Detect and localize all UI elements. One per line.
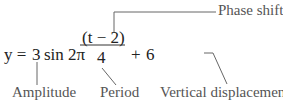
equation-numerator: (t − 2) [82, 28, 125, 48]
equation-function: sin 2π [44, 45, 85, 65]
equation-plus: + [131, 45, 141, 65]
equation-amplitude: 3 [32, 45, 41, 65]
label-vertical-displacement: Vertical displacement [160, 84, 283, 101]
equation-vertical: 6 [146, 45, 155, 65]
equation-denominator: 4 [97, 48, 106, 68]
equation-lhs: y = [4, 45, 26, 65]
label-amplitude: Amplitude [12, 84, 76, 101]
label-period: Period [100, 84, 139, 101]
label-phase-shift: Phase shift [218, 2, 283, 19]
